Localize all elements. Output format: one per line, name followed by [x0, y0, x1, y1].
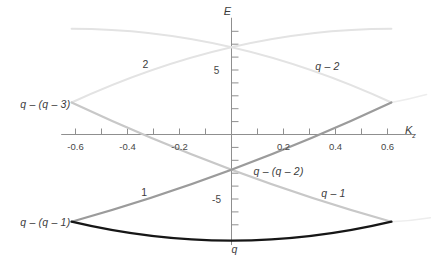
x-axis-title: Kz — [405, 125, 416, 138]
x-tick-label: -0.6 — [67, 142, 83, 152]
x-axis-title-sub: z — [412, 132, 416, 139]
band-2-ghost — [391, 95, 426, 103]
band-q-1-ghost — [391, 218, 430, 222]
label-band-1: 1 — [141, 186, 147, 197]
x-tick-label: 0.4 — [329, 142, 342, 152]
x-tick-label: 0.2 — [277, 142, 290, 152]
x-tick-label: -0.2 — [171, 142, 187, 152]
label-crossing-q-q-1: q – (q – 1) — [20, 217, 70, 228]
label-band-q-2: q – 2 — [315, 60, 339, 71]
label-band-q-1: q – 1 — [321, 187, 345, 198]
label-band-q: q — [232, 244, 238, 255]
band-structure-figure: -0.6-0.4-0.20.20.40.65-52q – 2q – (q – 3… — [0, 0, 431, 264]
label-crossing-q-q-3: q – (q – 3) — [20, 98, 70, 109]
label-band-2: 2 — [142, 58, 148, 69]
y-axis-title: E — [224, 6, 231, 17]
y-tick-label: -5 — [212, 195, 221, 205]
x-tick-label: -0.4 — [119, 142, 135, 152]
label-crossing-q-q-2: q – (q – 2) — [254, 166, 304, 177]
y-tick-label: 5 — [214, 66, 220, 76]
x-tick-label: 0.6 — [381, 142, 394, 152]
